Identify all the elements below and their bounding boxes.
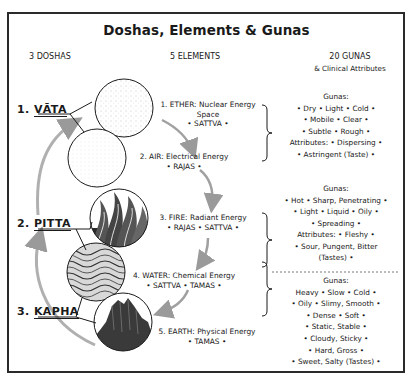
gunas-pitta: Gunas: • Hot • Sharp, Penetrating • • Li…	[266, 183, 406, 264]
element-earth: 5. EARTH: Physical Energy • TAMAS •	[152, 327, 262, 346]
dosha-name: PITTA	[34, 217, 71, 231]
dosha-label-kapha: 3. KAPHA	[17, 305, 79, 318]
dosha-label-vata: 1. VĀTA	[17, 103, 67, 116]
ether-circle-icon	[95, 79, 153, 137]
element-water: 4. WATER: Chemical Energy • SATTVA • TAM…	[126, 271, 242, 290]
gunas-kapha: Gunas: Heavy • Slow • Cold • • Oily • Sl…	[266, 275, 406, 368]
water-circle-icon	[60, 243, 132, 301]
dosha-label-pitta: 2. PITTA	[17, 217, 71, 230]
element-fire: 3. FIRE: Radiant Energy • RAJAS • SATTVA…	[150, 213, 256, 232]
element-air: 2. AIR: Electrical Energy • RAJAS •	[126, 152, 242, 171]
gunas-vata: Gunas: • Dry • Light • Cold • • Mobile •…	[266, 91, 406, 160]
air-circle-icon	[68, 129, 126, 187]
dosha-name: KAPHA	[34, 305, 79, 319]
dosha-name: VĀTA	[34, 103, 67, 117]
element-ether: 1. ETHER: Nuclear Energy Space • SATTVA …	[150, 100, 266, 129]
